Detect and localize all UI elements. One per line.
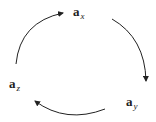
arrow-z-to-x bbox=[16, 13, 63, 64]
node-base: a bbox=[9, 76, 16, 91]
arrow-x-to-y bbox=[112, 19, 146, 81]
node-a-y: ay bbox=[126, 95, 138, 108]
node-a-x: ax bbox=[73, 5, 85, 18]
node-base: a bbox=[73, 4, 80, 19]
node-subscript: y bbox=[134, 101, 138, 111]
arrow-y-to-z bbox=[35, 101, 105, 115]
node-subscript: z bbox=[17, 83, 21, 93]
node-subscript: x bbox=[81, 11, 85, 21]
node-a-z: az bbox=[9, 77, 20, 90]
cyclic-diagram: ax ay az bbox=[0, 0, 156, 122]
node-base: a bbox=[126, 94, 133, 109]
